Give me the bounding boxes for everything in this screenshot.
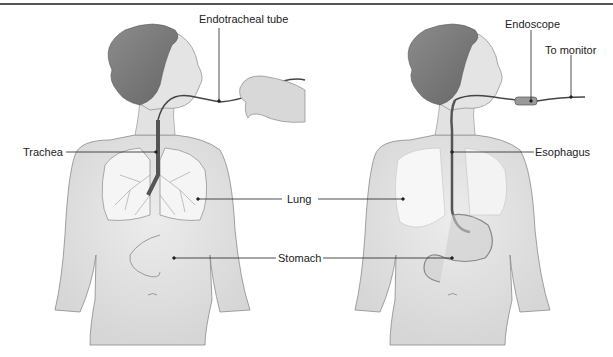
left-figure bbox=[55, 24, 305, 345]
label-to-monitor: To monitor bbox=[545, 44, 596, 56]
label-stomach: Stomach bbox=[278, 252, 321, 264]
hand-shape bbox=[240, 76, 305, 122]
label-endotracheal-tube: Endotracheal tube bbox=[199, 13, 288, 25]
label-trachea: Trachea bbox=[23, 146, 63, 158]
monitor-cable bbox=[537, 97, 585, 101]
label-esophagus: Esophagus bbox=[535, 146, 590, 158]
anatomy-illustration bbox=[0, 0, 613, 357]
lung-left bbox=[395, 148, 445, 227]
right-figure bbox=[355, 24, 585, 345]
endoscope-handle bbox=[515, 97, 537, 105]
label-endoscope: Endoscope bbox=[505, 18, 560, 30]
label-lung: Lung bbox=[287, 193, 311, 205]
torso-shape bbox=[55, 135, 250, 345]
